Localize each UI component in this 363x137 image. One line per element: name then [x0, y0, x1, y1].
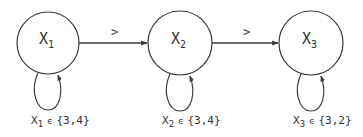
- node-label: X2: [171, 30, 186, 50]
- domain-constraint: X3ϵ{3,2}: [293, 114, 352, 129]
- node-label: X1: [39, 30, 54, 50]
- constraint-diagram: > > X1 X1ϵ{3,4} X2 X2ϵ{3,4} X3: [0, 0, 363, 137]
- node-x2: X2 X2ϵ{3,4}: [148, 11, 221, 129]
- edge-label: >: [243, 25, 250, 39]
- node-x3: X3 X3ϵ{3,2}: [279, 11, 352, 129]
- edge-x1-x2: >: [79, 25, 147, 43]
- node-x1: X1 X1ϵ{3,4}: [17, 12, 90, 129]
- self-loop: [34, 73, 60, 110]
- edge-label: >: [111, 25, 118, 39]
- self-loop: [166, 74, 192, 111]
- domain-constraint: X1ϵ{3,4}: [31, 114, 90, 129]
- self-loop: [297, 74, 323, 111]
- node-label: X3: [302, 30, 317, 50]
- edge-x2-x3: >: [212, 25, 278, 43]
- domain-constraint: X2ϵ{3,4}: [162, 114, 221, 129]
